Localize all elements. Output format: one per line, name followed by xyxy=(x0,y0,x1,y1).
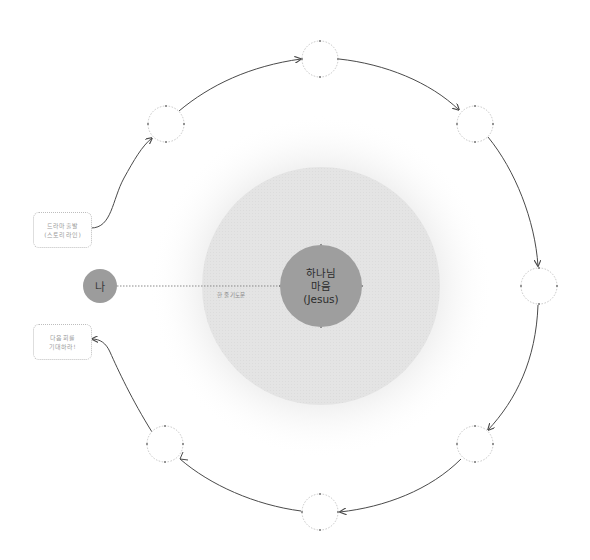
arrow-node3-to-node4 xyxy=(488,137,538,266)
start-box-line2: (스토리 라인) xyxy=(44,230,81,239)
arrow-node7-to-end xyxy=(92,339,152,432)
arrow-start-to-node1 xyxy=(91,138,152,228)
start-box[interactable]: 드라마 출발 (스토리 라인) xyxy=(33,212,92,248)
cycle-node[interactable] xyxy=(520,267,558,305)
arrow-node6-to-node7 xyxy=(180,459,301,511)
connector-label: 한 줄 기도문 xyxy=(217,291,246,299)
core-circle[interactable]: 하나님 마음 (Jesus) xyxy=(280,245,362,327)
cycle-node[interactable] xyxy=(456,425,494,463)
arrow-node1-to-node2 xyxy=(179,59,301,111)
start-box-line1: 드라마 출발 xyxy=(47,221,79,230)
end-box-line2: 기대하라! xyxy=(49,342,75,351)
end-box-line1: 다음 회를 xyxy=(50,333,76,342)
me-circle[interactable]: 나 xyxy=(83,269,117,303)
core-label-line1: 하나님 xyxy=(306,267,336,280)
arrow-node2-to-node3 xyxy=(339,59,459,110)
core-label-line2: 마음 xyxy=(311,280,331,293)
arrowhead-node7 xyxy=(180,452,188,460)
core-label-line3: (Jesus) xyxy=(303,293,338,306)
cycle-node[interactable] xyxy=(301,493,339,531)
arrow-node5-to-node6 xyxy=(340,459,461,512)
cycle-node[interactable] xyxy=(301,40,339,78)
cycle-diagram: 하나님 마음 (Jesus) 나 한 줄 기도문 드라마 출발 (스토리 라인)… xyxy=(0,0,590,560)
me-label: 나 xyxy=(95,278,105,294)
arrow-node4-to-node5 xyxy=(488,305,538,430)
end-box[interactable]: 다음 회를 기대하라! xyxy=(33,324,92,360)
